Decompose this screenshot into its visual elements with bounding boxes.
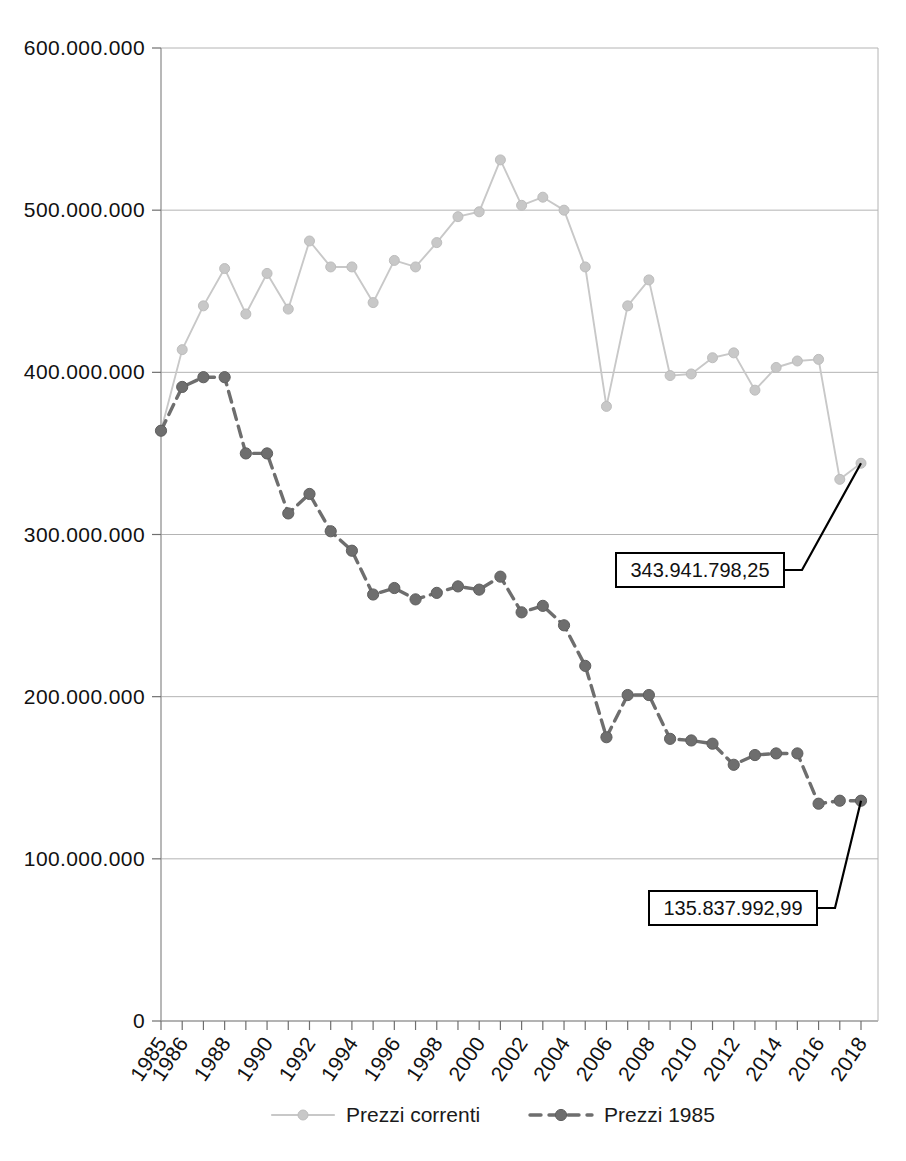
data-point-marker	[368, 589, 379, 600]
data-point-marker	[219, 372, 230, 383]
data-point-marker	[644, 275, 654, 285]
data-point-marker	[686, 735, 697, 746]
data-point-marker	[749, 749, 760, 760]
data-point-marker	[601, 732, 612, 743]
data-point-marker	[261, 448, 272, 459]
data-point-marker	[559, 205, 569, 215]
data-point-marker	[177, 381, 188, 392]
data-point-marker	[453, 212, 463, 222]
x-axis-tick-labels: 1985198619881990199219941996199820002002…	[125, 1032, 871, 1085]
x-axis-label: 2016	[783, 1032, 829, 1085]
x-axis-label: 2012	[698, 1032, 744, 1085]
data-point-marker	[835, 474, 845, 484]
data-point-marker	[707, 738, 718, 749]
y-axis-label: 200.000.000	[24, 685, 145, 708]
legend-item-prezzi-1985[interactable]: Prezzi 1985	[530, 1103, 715, 1126]
data-point-marker	[346, 545, 357, 556]
data-point-marker	[389, 255, 399, 265]
x-axis-label: 1994	[316, 1032, 362, 1085]
line-chart: 0100.000.000200.000.000300.000.000400.00…	[0, 0, 906, 1161]
data-point-marker	[792, 748, 803, 759]
data-point-marker	[474, 584, 485, 595]
legend-marker-icon	[555, 1109, 566, 1120]
x-axis-label: 2008	[613, 1032, 659, 1085]
data-point-marker	[220, 264, 230, 274]
data-point-marker	[728, 759, 739, 770]
data-point-marker	[665, 371, 675, 381]
data-point-marker	[241, 309, 251, 319]
series-line	[161, 160, 861, 479]
data-point-marker	[304, 236, 314, 246]
data-point-marker	[708, 353, 718, 363]
y-axis-label: 400.000.000	[24, 360, 145, 383]
data-point-marker	[538, 192, 548, 202]
x-axis-label: 2002	[486, 1032, 532, 1085]
data-point-marker	[474, 207, 484, 217]
data-point-marker	[580, 262, 590, 272]
y-axis-tick-labels: 0100.000.000200.000.000300.000.000400.00…	[24, 36, 145, 1032]
x-axis-label: 1998	[401, 1032, 447, 1085]
data-point-marker	[537, 600, 548, 611]
y-axis-label: 600.000.000	[24, 36, 145, 59]
data-point-marker	[623, 301, 633, 311]
data-point-marker	[834, 795, 845, 806]
legend-marker-icon	[298, 1110, 308, 1120]
data-point-marker	[326, 262, 336, 272]
callout-prezzi-correnti-final-value: 343.941.798,25	[616, 463, 861, 587]
chart-container: 0100.000.000200.000.000300.000.000400.00…	[0, 0, 906, 1161]
data-point-marker	[643, 689, 654, 700]
data-point-marker	[495, 155, 505, 165]
data-point-marker	[368, 298, 378, 308]
data-point-marker	[410, 594, 421, 605]
x-axis-label: 2018	[825, 1032, 871, 1085]
data-point-marker	[240, 448, 251, 459]
data-point-marker	[283, 508, 294, 519]
data-point-marker	[495, 571, 506, 582]
data-point-marker	[622, 689, 633, 700]
x-axis-label: 2004	[528, 1032, 574, 1085]
series-line	[161, 377, 861, 803]
x-axis-tickmarks	[161, 1021, 861, 1030]
data-point-marker	[558, 620, 569, 631]
data-point-marker	[517, 200, 527, 210]
callout-leader-line	[817, 801, 861, 908]
data-point-marker	[814, 354, 824, 364]
callout-leader-line	[784, 463, 861, 570]
data-point-marker	[304, 488, 315, 499]
x-axis-label: 2006	[571, 1032, 617, 1085]
y-axis-label: 300.000.000	[24, 523, 145, 546]
data-point-marker	[516, 607, 527, 618]
data-point-marker	[771, 748, 782, 759]
legend-label: Prezzi 1985	[604, 1103, 715, 1126]
data-point-marker	[664, 733, 675, 744]
x-axis-label: 1996	[359, 1032, 405, 1085]
data-point-marker	[771, 362, 781, 372]
data-point-marker	[750, 385, 760, 395]
y-axis-label: 0	[133, 1009, 145, 1032]
x-axis-label: 2014	[741, 1032, 787, 1085]
data-point-marker	[155, 425, 166, 436]
data-point-marker	[347, 262, 357, 272]
data-point-marker	[198, 301, 208, 311]
x-axis-label: 1990	[232, 1032, 278, 1085]
data-series	[155, 155, 866, 809]
series-prezzi-1985	[155, 372, 866, 810]
data-point-marker	[601, 401, 611, 411]
x-axis-label: 2010	[656, 1032, 702, 1085]
data-point-marker	[432, 238, 442, 248]
y-axis-label: 100.000.000	[24, 847, 145, 870]
data-point-marker	[389, 582, 400, 593]
data-point-marker	[792, 356, 802, 366]
legend-label: Prezzi correnti	[346, 1103, 480, 1126]
data-point-marker	[580, 660, 591, 671]
chart-legend: Prezzi correntiPrezzi 1985	[272, 1103, 715, 1126]
y-axis-label: 500.000.000	[24, 198, 145, 221]
callout-prezzi-1985-final-value: 135.837.992,99	[649, 801, 861, 925]
data-point-marker	[431, 587, 442, 598]
data-point-marker	[411, 262, 421, 272]
data-point-marker	[198, 372, 209, 383]
x-axis-label: 2000	[444, 1032, 490, 1085]
data-point-marker	[283, 304, 293, 314]
series-prezzi-correnti	[156, 155, 866, 484]
legend-item-prezzi-correnti[interactable]: Prezzi correnti	[272, 1103, 480, 1126]
